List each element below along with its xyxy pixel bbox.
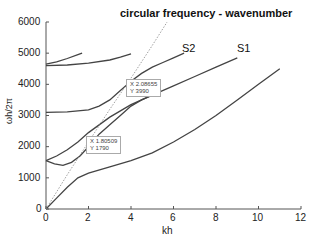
x-tick-6: 6 [170,212,176,223]
x-tick-0: 0 [43,212,49,223]
y-tick-3000: 3000 [18,109,40,120]
datatip-1-y: Y 3990 [130,88,157,95]
x-tick-2: 2 [85,212,91,223]
y-tick-6000: 6000 [18,16,40,27]
curve-mode-6 [46,53,82,64]
y-tick-1000: 1000 [18,172,40,183]
datatip-2[interactable]: X 1.80509 Y 1790 [86,136,121,154]
axes [46,22,301,209]
curve-label-s2: S2 [182,42,195,54]
x-axis-label: kh [162,225,173,236]
y-tick-4000: 4000 [18,78,40,89]
curve-S2 [46,53,184,112]
y-axis-label: ωh/2π [4,98,14,124]
datatip-1[interactable]: X 2.08655 Y 3990 [126,79,161,97]
datatip-2-y: Y 1790 [90,145,117,152]
x-tick-8: 8 [213,212,219,223]
y-tick-5000: 5000 [18,47,40,58]
curve-mode-5 [46,54,131,66]
datatip-2-x: X 1.80509 [90,138,117,145]
curve-label-s1: S1 [237,42,250,54]
chart-title: circular frequency - wavenumber [120,7,292,19]
datatip-1-x: X 2.08655 [130,81,157,88]
curve-light-line [46,22,167,209]
x-tick-4: 4 [128,212,134,223]
plot-area [0,0,313,247]
x-tick-10: 10 [252,212,263,223]
y-tick-0: 0 [36,203,42,214]
x-tick-12: 12 [295,212,306,223]
y-tick-2000: 2000 [18,140,40,151]
